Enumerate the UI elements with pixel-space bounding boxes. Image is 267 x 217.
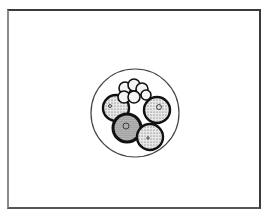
embryo-illustration — [0, 0, 267, 217]
bottom-right-cell — [137, 124, 163, 150]
small-cell — [141, 90, 151, 100]
blastomeres-small — [118, 79, 151, 103]
small-cell — [128, 91, 140, 103]
right-cell — [144, 97, 170, 123]
